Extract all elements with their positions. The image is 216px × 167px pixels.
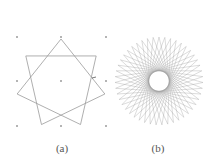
star-polygon-rosette: [115, 37, 203, 125]
small-marker: [92, 77, 96, 78]
grid-dot: [60, 125, 62, 127]
grid-dot: [16, 36, 18, 38]
grid-dot: [60, 36, 62, 38]
grid-dot: [105, 125, 107, 127]
grid-dot: [16, 125, 18, 127]
panel-a-seven-point-star: [16, 36, 107, 127]
panel-b-rosette: [115, 37, 203, 125]
caption-b: (b): [143, 142, 173, 154]
grid-dot: [105, 80, 107, 82]
caption-a: (a): [47, 142, 77, 154]
grid-dots: [16, 36, 107, 127]
grid-dot: [60, 80, 62, 82]
grid-dot: [105, 36, 107, 38]
figure-canvas: [0, 0, 216, 167]
grid-dot: [16, 80, 18, 82]
